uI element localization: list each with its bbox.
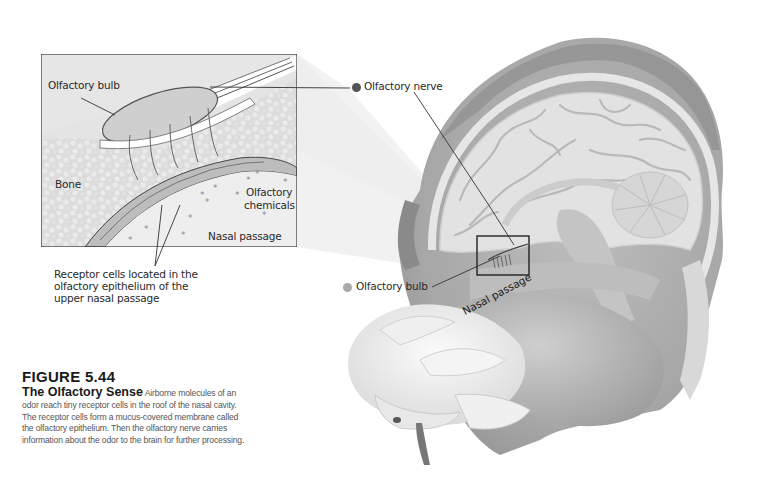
svg-text:*: *	[246, 175, 251, 185]
figure-number: FIGURE 5.44	[22, 368, 115, 385]
svg-text:*: *	[188, 213, 193, 223]
inset-label-olfactory-chemicals-2: chemicals	[244, 199, 295, 211]
svg-text:*: *	[213, 183, 218, 193]
inset-label-olfactory-bulb: Olfactory bulb	[48, 79, 120, 91]
receptor-cells-callout: Receptor cells located in the olfactory …	[54, 268, 198, 304]
figure-title: The Olfactory Sense	[22, 385, 143, 399]
svg-text:*: *	[262, 210, 267, 220]
head-label-olfactory-bulb: Olfactory bulb	[356, 280, 428, 292]
olfactory-nerve-dot-icon	[352, 83, 361, 92]
svg-text:*: *	[144, 224, 149, 234]
svg-text:*: *	[255, 169, 260, 179]
svg-text:*: *	[128, 235, 133, 245]
head-label-olfactory-nerve: Olfactory nerve	[364, 80, 443, 92]
inset-label-nasal-passage: Nasal passage	[208, 230, 281, 242]
inset-label-bone: Bone	[55, 178, 81, 190]
olfactory-bulb-dot-icon	[343, 283, 352, 292]
callout-line-1: Receptor cells located in the	[54, 268, 198, 280]
svg-text:*: *	[181, 230, 186, 240]
callout-line-2: olfactory epithelium of the	[54, 280, 198, 292]
svg-text:*: *	[205, 197, 210, 207]
inset-label-olfactory-chemicals-1: Olfactory	[246, 186, 292, 198]
callout-line-3: upper nasal passage	[54, 292, 198, 304]
svg-text:*: *	[235, 190, 240, 200]
figure-caption: The Olfactory Sense Airborne molecules o…	[22, 387, 247, 447]
